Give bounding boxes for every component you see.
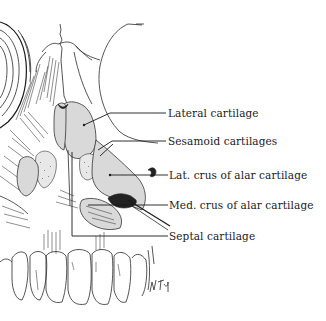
left-orbit xyxy=(0,22,31,128)
left-lateral-cartilage-shape xyxy=(54,103,66,150)
label-lat-crus-alar-cartilage: Lat. crus of alar cartilage xyxy=(169,169,307,181)
leader-lateral-cartilage xyxy=(84,113,166,125)
label-med-crus-alar-cartilage: Med. crus of alar cartilage xyxy=(169,199,314,211)
lateral-cartilage-shape xyxy=(63,102,96,159)
anatomy-figure: Lateral cartilage Sesamoid cartilages La… xyxy=(0,0,326,321)
label-sesamoid-cartilages: Sesamoid cartilages xyxy=(168,135,277,147)
nasal-anatomy-drawing xyxy=(0,0,326,321)
teeth xyxy=(0,230,154,304)
artist-signature xyxy=(150,280,168,292)
label-septal-cartilage: Septal cartilage xyxy=(169,230,255,242)
sesamoid-cartilages-shape xyxy=(35,151,98,188)
label-lateral-cartilage: Lateral cartilage xyxy=(168,107,259,119)
probe xyxy=(128,200,170,226)
